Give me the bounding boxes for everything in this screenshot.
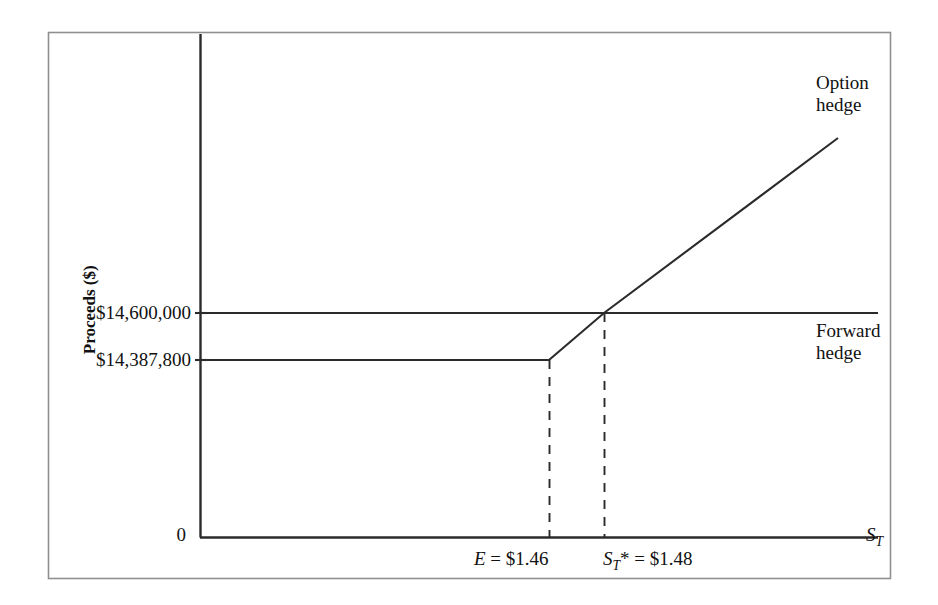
series-label-forward-hedge-line1: Forward (816, 320, 880, 342)
y-tick-label-14387800: $14,387,800 (46, 349, 191, 371)
x-axis-title-symbol: S (866, 524, 876, 545)
x-annotation-strike: E = $1.46 (474, 548, 549, 570)
x-axis-title-subscript: T (876, 534, 884, 549)
x-annotation-breakeven-value: * = $1.48 (620, 548, 692, 569)
series-line-option-hedge (201, 138, 838, 360)
y-tick-label-14600000: $14,600,000 (46, 302, 191, 324)
y-tick-label-zero: 0 (140, 524, 186, 546)
series-label-forward-hedge: Forward hedge (816, 320, 880, 364)
x-annotation-breakeven: ST* = $1.48 (603, 548, 693, 574)
series-label-option-hedge-line2: hedge (816, 94, 869, 116)
series-label-option-hedge-line1: Option (816, 72, 869, 94)
series-label-option-hedge: Option hedge (816, 72, 869, 116)
x-axis-title: ST (866, 524, 883, 550)
series-label-forward-hedge-line2: hedge (816, 342, 880, 364)
x-annotation-breakeven-subscript: T (613, 558, 621, 573)
x-annotation-strike-value: = $1.46 (486, 548, 549, 569)
x-annotation-strike-symbol: E (474, 548, 486, 569)
x-annotation-breakeven-symbol: S (603, 548, 613, 569)
figure-panel: Proceeds ($) $14,600,000 $14,387,800 0 S… (0, 0, 938, 605)
